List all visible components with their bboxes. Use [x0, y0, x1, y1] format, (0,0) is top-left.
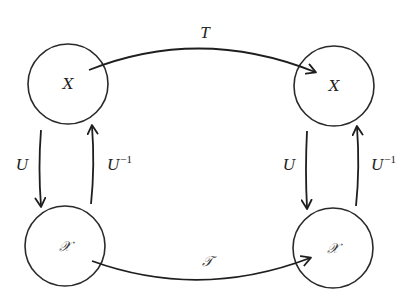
edge-u-right: U	[283, 131, 307, 208]
edge-label-t: T	[200, 23, 211, 42]
node-label-x: X	[328, 77, 341, 95]
node-bottom-left: 𝒳	[25, 206, 105, 286]
edge-u-left: U	[16, 130, 41, 206]
arrow-up	[356, 127, 358, 206]
edge-label-u: U	[283, 155, 297, 174]
superscript-minus-one: −1	[120, 153, 132, 165]
edge-script-t: 𝒯	[92, 253, 310, 280]
edge-label-u-inverse: U−1	[371, 153, 396, 174]
node-bottom-right: 𝒳	[293, 208, 373, 288]
edge-label-u: U	[16, 155, 30, 174]
edge-label-u-inverse: U−1	[107, 153, 132, 174]
node-label-script-x: 𝒳	[327, 240, 343, 256]
edge-u-inverse-right: U−1	[356, 127, 396, 206]
node-label-script-x: 𝒳	[59, 238, 75, 254]
edge-label-u: U	[371, 155, 385, 174]
edge-t: T	[89, 23, 315, 72]
edge-label-script-t: 𝒯	[202, 253, 217, 269]
edge-u-inverse-left: U−1	[91, 126, 132, 204]
edge-label-u: U	[107, 155, 121, 174]
node-top-left: X	[28, 44, 108, 124]
arrow-down	[306, 131, 307, 208]
node-label-x: X	[62, 75, 75, 93]
arrow-up	[91, 126, 93, 204]
curved-arrow-right	[89, 48, 315, 72]
superscript-minus-one: −1	[384, 153, 396, 165]
node-top-right: X	[294, 46, 374, 126]
arrow-down	[40, 130, 42, 206]
commutative-diagram: X X 𝒳 𝒳 T 𝒯 U	[0, 0, 414, 307]
